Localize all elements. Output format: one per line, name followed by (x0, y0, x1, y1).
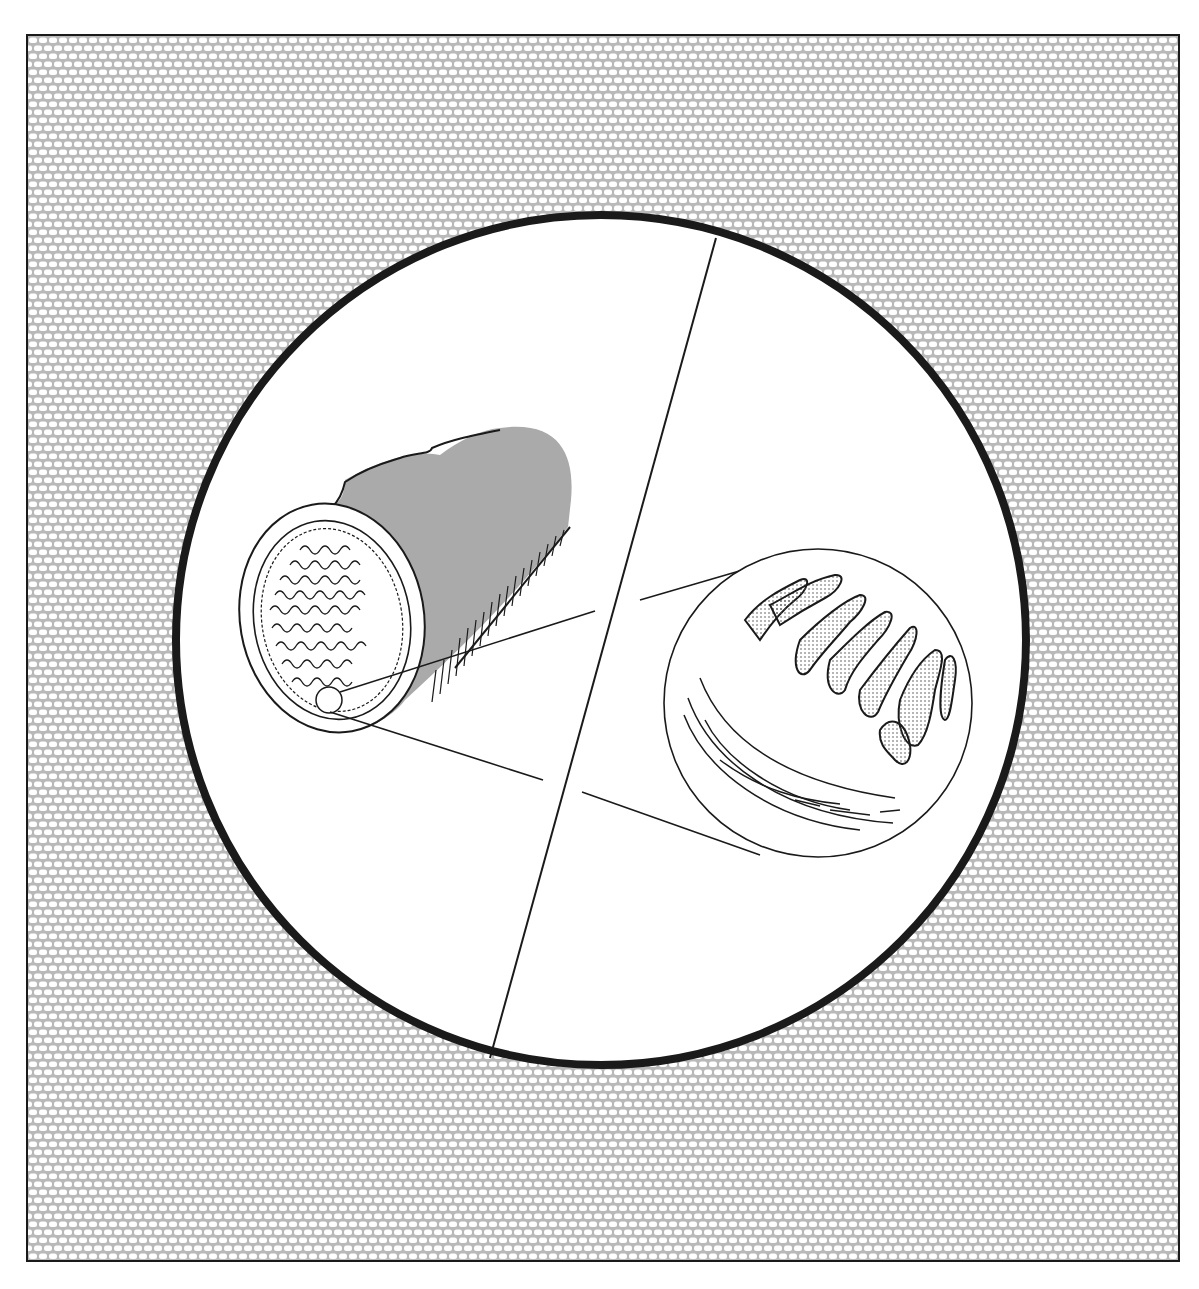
tube-sample-point (316, 687, 342, 713)
illustration (0, 0, 1199, 1289)
figure-caption (0, 1276, 1199, 1289)
magnified-inset (664, 549, 972, 857)
